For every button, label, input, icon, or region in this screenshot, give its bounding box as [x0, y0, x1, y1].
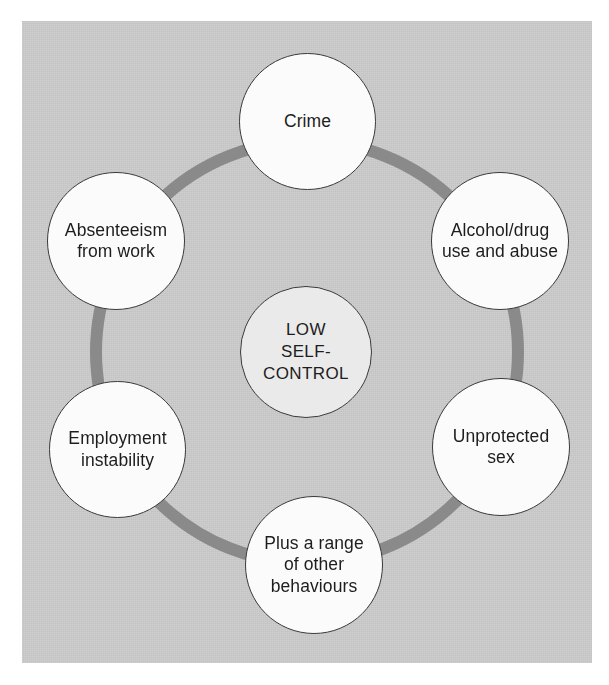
- node-unprotected-sex-label: Unprotected sex: [444, 426, 558, 469]
- node-employment-instability-label: Employment instability: [59, 428, 175, 471]
- node-low-self-control-label: LOW SELF- CONTROL: [254, 319, 358, 385]
- diagram-figure: Crime Alcohol/drug use and abuse Unprote…: [0, 0, 609, 685]
- node-low-self-control[interactable]: LOW SELF- CONTROL: [240, 286, 372, 418]
- node-alcohol-drug-use[interactable]: Alcohol/drug use and abuse: [431, 172, 569, 310]
- node-other-behaviours[interactable]: Plus a range of other behaviours: [245, 496, 383, 634]
- node-crime[interactable]: Crime: [239, 53, 376, 190]
- node-employment-instability[interactable]: Employment instability: [49, 381, 186, 518]
- node-crime-label: Crime: [275, 111, 340, 132]
- node-absenteeism-from-work[interactable]: Absenteeism from work: [47, 172, 185, 310]
- node-alcohol-drug-use-label: Alcohol/drug use and abuse: [433, 220, 567, 263]
- node-other-behaviours-label: Plus a range of other behaviours: [255, 533, 372, 597]
- node-unprotected-sex[interactable]: Unprotected sex: [432, 378, 570, 516]
- node-absenteeism-from-work-label: Absenteeism from work: [56, 220, 176, 263]
